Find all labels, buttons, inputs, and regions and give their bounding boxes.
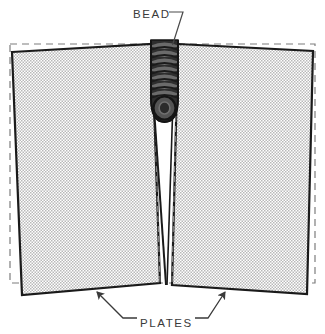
weld-bead-ripples (150, 43, 179, 120)
weld-bead (150, 40, 179, 122)
bead-label: BEAD (133, 8, 171, 20)
left-plate-leader-line (97, 292, 137, 318)
right-plate (172, 44, 313, 294)
left-plate (12, 44, 160, 295)
weld-joint-illustration: BEAD PLATES (0, 0, 325, 334)
right-plate-leader-line (195, 292, 225, 318)
weld-diagram-root: BEAD PLATES (0, 0, 325, 334)
plates-label: PLATES (140, 317, 193, 329)
